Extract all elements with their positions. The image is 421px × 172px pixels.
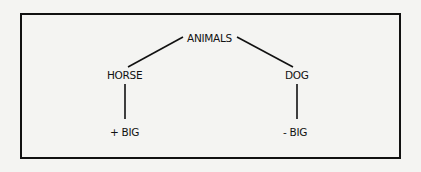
tree-edges — [0, 0, 421, 172]
node-animals: ANIMALS — [187, 32, 232, 44]
node-dog: DOG — [285, 69, 309, 81]
edge-animals-horse — [128, 37, 183, 67]
node-horse-feature: + BIG — [110, 126, 139, 138]
node-dog-feature: - BIG — [283, 126, 307, 138]
node-horse: HORSE — [107, 69, 142, 81]
edge-animals-dog — [237, 37, 293, 67]
